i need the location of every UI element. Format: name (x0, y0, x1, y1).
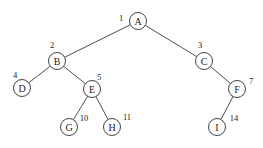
node-label: C (201, 56, 208, 67)
nodes-layer: A1B2C3D4E5F7G10H11I14 (13, 13, 253, 136)
edge-a-c (145, 25, 196, 56)
node-index-label: 14 (230, 113, 239, 123)
tree-node-b: B2 (49, 40, 66, 70)
node-label: G (65, 122, 72, 133)
node-label: I (215, 122, 218, 133)
node-label: E (89, 84, 95, 95)
tree-node-g: G10 (61, 113, 89, 136)
tree-node-h: H11 (104, 112, 132, 136)
node-label: F (234, 84, 240, 95)
edge-b-e (64, 66, 86, 83)
tree-node-c: C3 (196, 40, 213, 70)
edge-a-b (65, 25, 131, 57)
binary-tree-diagram: A1B2C3D4E5F7G10H11I14 (0, 0, 263, 148)
node-label: B (54, 56, 61, 67)
node-label: A (134, 16, 142, 27)
node-index-label: 4 (13, 70, 18, 80)
tree-node-e: E5 (84, 72, 102, 98)
node-index-label: 3 (198, 40, 202, 50)
node-index-label: 7 (249, 76, 253, 86)
edge-b-d (29, 66, 51, 83)
edge-e-h (96, 97, 108, 120)
node-index-label: 1 (119, 13, 123, 23)
tree-node-a: A1 (119, 13, 147, 30)
tree-node-i: I14 (209, 113, 240, 136)
node-index-label: 10 (80, 113, 89, 123)
node-index-label: 5 (97, 72, 101, 82)
edges-layer (29, 25, 233, 120)
node-label: H (108, 122, 115, 133)
tree-node-f: F7 (229, 76, 254, 98)
tree-node-d: D4 (13, 70, 31, 97)
node-label: D (18, 83, 25, 94)
edge-c-f (210, 67, 230, 84)
node-index-label: 2 (50, 40, 54, 50)
node-index-label: 11 (123, 112, 131, 122)
